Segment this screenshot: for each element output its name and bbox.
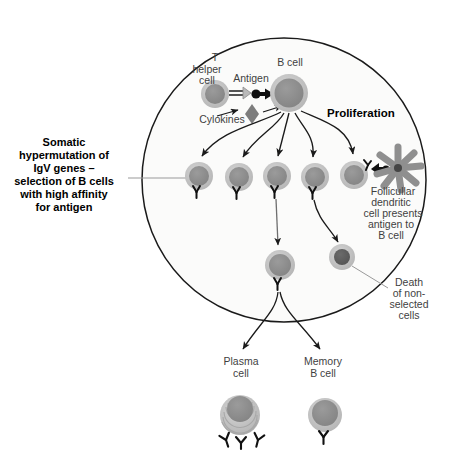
secreted-antibody-icons: [219, 433, 264, 449]
somatic-hypermutation-label-line2: hypermutation of: [19, 149, 109, 161]
antigen-label: Antigen: [233, 72, 269, 84]
death-label-line4: cells: [398, 309, 419, 321]
antibody-receptor-icon: [319, 431, 328, 444]
somatic-hypermutation-label-line5: with high affinity: [19, 188, 108, 200]
proliferation-label: Proliferation: [327, 107, 395, 119]
somatic-hypermutation-label-line4: selection of B cells: [14, 175, 114, 187]
diagram-canvas: T helper cell B cell Antigen Cylokines P…: [0, 0, 450, 453]
plasma-cell-label-line1: Plasma: [223, 355, 258, 367]
somatic-hypermutation-label-line6: for antigen: [36, 201, 93, 213]
memory-b-cell-label-line1: Memory: [304, 355, 343, 367]
dendritic-cell-nucleus: [394, 164, 402, 172]
b-cell-label: B cell: [277, 56, 303, 68]
t-helper-cell-label-line1: T: [212, 51, 219, 63]
memory-b-cell: [308, 398, 342, 444]
b-cell: [270, 74, 308, 112]
follicular-dendritic-label-line5: B cell: [378, 229, 404, 241]
cytokines-label: Cylokines: [199, 113, 245, 125]
plasma-cell-label-line2: cell: [233, 367, 249, 379]
dying-b-cell: [329, 244, 355, 270]
somatic-hypermutation-label-line1: Somatic: [43, 136, 86, 148]
memory-b-cell-label-line2: B cell: [310, 367, 336, 379]
t-helper-cell-label-line3: cell: [199, 74, 215, 86]
somatic-hypermutation-label-line3: IgV genes –: [33, 162, 94, 174]
plasma-cell: [220, 395, 260, 435]
